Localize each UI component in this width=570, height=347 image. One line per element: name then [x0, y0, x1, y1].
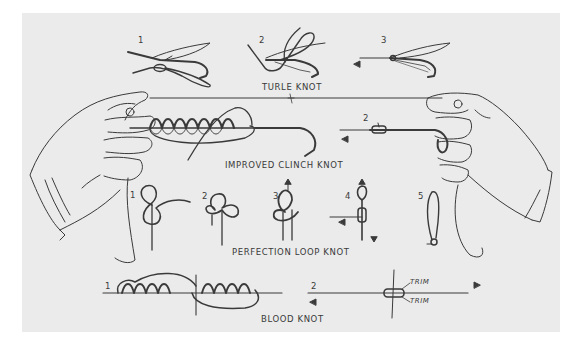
trim-annotation-top: TRIM: [410, 278, 429, 286]
turle-step-2-number: 2: [259, 35, 264, 45]
blood-knot-label: BLOOD KNOT: [261, 314, 324, 324]
clinch-step-1-knot-illustration: [130, 108, 315, 160]
perfection-step-1-number: 1: [130, 190, 135, 200]
clinch-knot-label: IMPROVED CLINCH KNOT: [225, 160, 343, 170]
arrow-left-icon: [354, 61, 360, 67]
perfection-step-3-number: 3: [273, 191, 278, 201]
arrow-right-icon: [474, 282, 480, 288]
arrow-left-icon: [310, 299, 316, 305]
arrow-down-icon: [371, 237, 377, 242]
clinch-step-2-number: 2: [363, 113, 368, 123]
turle-step-3-fly-illustration: [354, 43, 450, 77]
arrow-up-icon: [285, 179, 291, 184]
trim-annotation-bottom: TRIM: [410, 297, 429, 305]
perfection-step-2-knot-illustration: [206, 194, 238, 245]
right-hand-illustration: [426, 93, 552, 257]
perfection-step-4-number: 4: [345, 191, 350, 201]
trim-pointer-line: [402, 297, 410, 302]
clinch-step-2-knot-illustration: [340, 123, 447, 152]
turle-step-1-number: 1: [138, 35, 143, 45]
perfection-step-2-number: 2: [202, 191, 207, 201]
arrow-up-icon: [359, 179, 365, 184]
blood-step-2-number: 2: [311, 281, 316, 291]
left-hand-illustration: [30, 92, 155, 263]
blood-step-2-knot-illustration: [308, 270, 480, 318]
perfection-step-3-knot-illustration: [274, 179, 298, 240]
turle-step-3-number: 3: [381, 35, 386, 45]
perfection-step-1-knot-illustration: [141, 186, 190, 250]
arrow-left-icon: [339, 219, 345, 225]
trim-pointer-line: [402, 283, 410, 289]
perfection-step-5-number: 5: [418, 191, 423, 201]
blood-step-1-number: 1: [105, 281, 110, 291]
blood-step-1-knot-illustration: [103, 273, 282, 315]
turle-step-1-fly-illustration: [128, 43, 210, 87]
perfection-step-4-knot-illustration: [330, 179, 377, 242]
arrow-left-icon: [342, 136, 348, 142]
turle-knot-label: TURLE KNOT: [262, 82, 322, 92]
perfection-step-5-loop-illustration: [427, 192, 439, 245]
perfection-loop-knot-label: PERFECTION LOOP KNOT: [232, 247, 350, 257]
